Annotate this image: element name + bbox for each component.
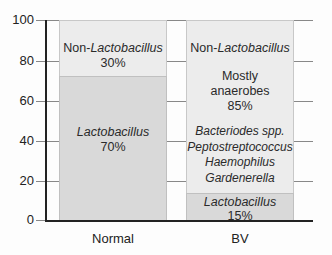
label-bv-organisms: Bacteriodes spp. Peptostreptococcus Haem…: [187, 124, 293, 186]
ytick-40: 40: [4, 134, 34, 148]
bar-normal-non-lactobacillus: Non-Lactobacillus 30%: [59, 20, 167, 77]
label-normal-non-lacto: Non-Lactobacillus 30%: [60, 41, 166, 71]
stacked-bar-chart: 100 80 60 40 20 0 Non-Lactobacillus 30% …: [0, 0, 332, 255]
ytick-100: 100: [4, 13, 34, 27]
xlabel-normal: Normal: [59, 231, 167, 246]
label-bv-anaerobes: Mostly anaerobes 85%: [187, 69, 293, 114]
ytick-80: 80: [4, 54, 34, 68]
bar-bv-lactobacillus: Lactobacillus 15%: [186, 193, 294, 221]
x-axis: [45, 220, 313, 222]
label-bv-lacto: Lactobacillus 15%: [187, 195, 293, 223]
ytick-0: 0: [4, 213, 34, 227]
label-normal-lacto: Lactobacillus 70%: [60, 125, 166, 155]
ytick-60: 60: [4, 94, 34, 108]
bar-bv-non-lactobacillus: Non-Lactobacillus Mostly anaerobes 85% B…: [186, 20, 294, 194]
xlabel-bv: BV: [186, 231, 294, 246]
y-axis: [45, 20, 47, 221]
label-bv-non-lacto: Non-Lactobacillus: [187, 41, 293, 56]
bar-normal-lactobacillus: Lactobacillus 70%: [59, 76, 167, 221]
ytick-20: 20: [4, 174, 34, 188]
